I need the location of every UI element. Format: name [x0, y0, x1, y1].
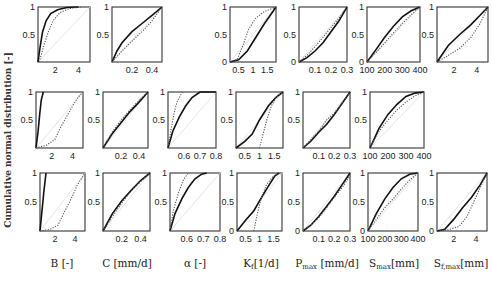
x-tick-label: 100: [360, 234, 375, 244]
x-tick-label: 200: [380, 151, 395, 161]
y-tick-label: 0.5: [351, 30, 364, 40]
y-tick-label: 0.5: [220, 115, 233, 125]
y-tick-label: 1: [291, 2, 296, 12]
y-tick-label: 0.5: [221, 197, 234, 207]
x-tick-label: 0.2: [126, 65, 139, 75]
x-tick-label: 0.4: [134, 234, 147, 244]
panel-C-row2: 0.510.20.4: [87, 87, 148, 161]
x-tick-label: 0.2: [328, 234, 341, 244]
panel-B-row1: 0.5124: [22, 2, 90, 75]
y-tick-label: 1: [359, 2, 364, 12]
x-tick-label: 4: [70, 151, 75, 161]
panel-Kf-row2: 0.510.511.5: [220, 87, 283, 161]
x-tick-label: 0.2: [116, 234, 129, 244]
y-tick-label: 0.5: [352, 197, 365, 207]
x-tick-label: 0.2: [115, 151, 128, 161]
y-tick-label: 1: [32, 168, 37, 178]
y-tick-label: 0: [291, 57, 296, 67]
x-tick-label: 100: [359, 65, 374, 75]
y-tick-label: 1: [295, 87, 300, 97]
x-tick-label: 400: [410, 234, 425, 244]
y-tick-label: 1: [222, 2, 227, 12]
panel-Pmax-row1: 00.510.10.20.3: [283, 2, 353, 75]
x-tick-label: 300: [395, 65, 410, 75]
x-tick-label: 200: [377, 65, 392, 75]
y-tick-label: 1: [229, 168, 234, 178]
y-tick-label: 0.5: [20, 115, 33, 125]
y-tick-label: 0.5: [287, 115, 300, 125]
x-label-alpha: α [-]: [184, 257, 206, 269]
x-tick-label: 2: [451, 65, 456, 75]
x-tick-label: 0.1: [312, 234, 325, 244]
x-tick-label: 1: [257, 234, 262, 244]
panel-Smax-row2: 0.51100200300400: [354, 87, 431, 161]
x-tick-label: 1: [257, 151, 262, 161]
x-tick-label: 0.7: [197, 234, 210, 244]
panel-Sfmax-row1: 0.5124: [421, 2, 488, 75]
x-tick-label: 0.7: [194, 151, 207, 161]
y-tick-label: 1: [360, 168, 365, 178]
y-tick-label: 0.5: [87, 115, 100, 125]
x-tick-label: 0.4: [146, 65, 159, 75]
y-axis-label: Cumulative normal distribution [-]: [3, 52, 13, 227]
y-tick-label: 0.5: [287, 197, 300, 207]
panel-Smax-row1: 00.51100200300400: [351, 2, 427, 75]
x-tick-label: 0.5: [239, 234, 252, 244]
x-tick-label: 4: [473, 234, 478, 244]
x-tick-label: 0.8: [214, 234, 227, 244]
x-tick-label: 0.5: [239, 151, 252, 161]
panel-Pmax-row2: 0.510.10.20.3: [287, 87, 356, 161]
y-tick-label: 0: [222, 57, 227, 67]
x-tick-label: 300: [398, 151, 413, 161]
panel-alpha-row2: 0.510.60.70.8: [152, 87, 222, 161]
figure: Cumulative normal distribution [-] 0.512…: [0, 0, 492, 281]
x-tick-label: 0.3: [344, 234, 357, 244]
x-label-Kf: Kf[1/d]: [243, 257, 279, 271]
x-tick-label: 1.5: [267, 234, 280, 244]
y-tick-label: 1: [162, 168, 167, 178]
y-tick-label: 1: [228, 87, 233, 97]
y-tick-label: 0.5: [152, 115, 165, 125]
y-tick-label: 0.5: [22, 30, 35, 40]
y-tick-label: 1: [295, 168, 300, 178]
x-tick-label: 0.3: [341, 65, 354, 75]
x-tick-label: 0.6: [180, 234, 193, 244]
panel-Kf-row1: 00.510.511.5: [214, 2, 276, 75]
y-tick-label: 0: [429, 226, 434, 236]
y-tick-label: 0.5: [96, 30, 109, 40]
y-tick-label: 0.5: [24, 197, 37, 207]
x-tick-label: 0.8: [210, 151, 223, 161]
x-axis-labels: B [-]C [mm/d]α [-]Kf[1/d]Pmax [mm/d]Smax…: [51, 257, 489, 271]
y-tick-label: 0.5: [154, 197, 167, 207]
x-label-C: C [mm/d]: [102, 257, 152, 269]
x-tick-label: 4: [72, 234, 77, 244]
y-tick-label: 1: [95, 168, 100, 178]
y-tick-label: 1: [104, 2, 109, 12]
y-tick-label: 0: [229, 226, 234, 236]
y-tick-label: 0.5: [283, 30, 296, 40]
x-tick-label: 200: [377, 234, 392, 244]
x-tick-label: 0.3: [344, 151, 357, 161]
y-tick-label: 1: [160, 87, 165, 97]
x-label-B: B [-]: [51, 257, 74, 269]
x-tick-label: 0.2: [328, 151, 341, 161]
y-tick-label: 1: [30, 2, 35, 12]
x-tick-label: 1.5: [261, 65, 274, 75]
panel-B-row2: 0.5124: [20, 87, 83, 161]
x-tick-label: 0.6: [178, 151, 191, 161]
x-tick-label: 100: [362, 151, 377, 161]
y-tick-label: 0.5: [87, 197, 100, 207]
x-tick-label: 0.1: [309, 65, 322, 75]
x-label-Smax: Smax[mm]: [369, 257, 419, 271]
x-tick-label: 2: [52, 234, 57, 244]
panel-C-row3: 0.510.20.4: [87, 168, 150, 244]
x-tick-label: 2: [451, 234, 456, 244]
x-tick-label: 1: [250, 65, 255, 75]
y-tick-label: 0.5: [214, 30, 227, 40]
y-tick-label: 0.5: [354, 115, 367, 125]
x-tick-label: 0.2: [325, 65, 338, 75]
y-tick-label: 0.5: [421, 30, 434, 40]
x-tick-label: 2: [49, 151, 54, 161]
panel-Pmax-row3: 00.510.10.20.3: [287, 168, 356, 244]
x-tick-label: 4: [76, 65, 81, 75]
